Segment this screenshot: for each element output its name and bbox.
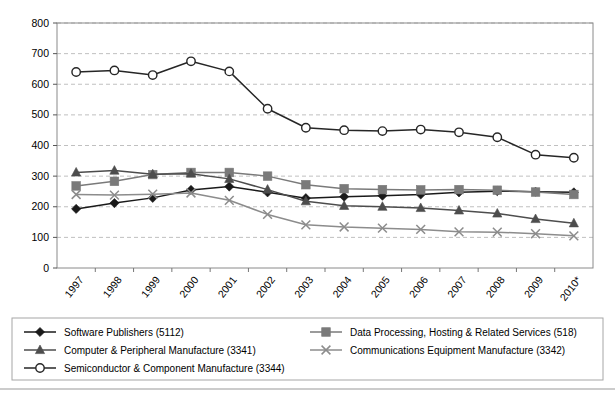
- y-tick-label-700: 700: [31, 47, 49, 59]
- marker-square: [302, 180, 311, 189]
- data-point-semiconductor-component-2008: [493, 133, 501, 141]
- y-tick-label-200: 200: [31, 200, 49, 212]
- data-point-semiconductor-component-2004: [340, 126, 348, 134]
- data-point-semiconductor-component-1998: [110, 66, 118, 74]
- marker-circle-open: [570, 154, 578, 162]
- marker-circle-open: [263, 105, 271, 113]
- marker-circle-open: [378, 127, 386, 135]
- y-tick-label-100: 100: [31, 231, 49, 243]
- marker-square: [72, 182, 81, 191]
- marker-square: [378, 185, 387, 194]
- data-point-data-processing-2003: [302, 180, 311, 189]
- marker-circle-open: [187, 57, 195, 65]
- data-point-semiconductor-component-1999: [149, 71, 157, 79]
- marker-square: [322, 328, 331, 337]
- marker-circle-open: [110, 66, 118, 74]
- legend-marker-icon: [322, 328, 331, 337]
- data-point-semiconductor-component-2010*: [570, 154, 578, 162]
- data-point-data-processing-2002: [263, 172, 272, 181]
- marker-square: [110, 177, 119, 186]
- marker-circle-open: [531, 150, 539, 158]
- marker-circle-open: [302, 124, 310, 132]
- data-point-data-processing-2009: [531, 188, 540, 197]
- data-point-data-processing-2005: [378, 185, 387, 194]
- marker-square: [493, 186, 502, 195]
- marker-circle-open: [493, 133, 501, 141]
- data-point-semiconductor-component-2003: [302, 124, 310, 132]
- data-point-semiconductor-component-2009: [531, 150, 539, 158]
- data-point-semiconductor-component-2000: [187, 57, 195, 65]
- data-point-data-processing-2010*: [570, 190, 579, 199]
- data-point-semiconductor-component-2002: [263, 105, 271, 113]
- marker-square: [455, 185, 464, 194]
- y-tick-label-600: 600: [31, 78, 49, 90]
- data-point-data-processing-2008: [493, 186, 502, 195]
- data-point-data-processing-1997: [72, 182, 81, 191]
- marker-circle-open: [340, 126, 348, 134]
- legend-item-data-processing[interactable]: Data Processing, Hosting & Related Servi…: [310, 327, 577, 338]
- chart-legend: Software Publishers (5112)Data Processin…: [0, 318, 615, 389]
- marker-circle-open: [149, 71, 157, 79]
- data-point-data-processing-2004: [340, 184, 349, 193]
- legend-label: Data Processing, Hosting & Related Servi…: [350, 327, 577, 338]
- data-point-semiconductor-component-2007: [455, 128, 463, 136]
- data-point-data-processing-1998: [110, 177, 119, 186]
- marker-square: [531, 188, 540, 197]
- y-tick-label-400: 400: [31, 139, 49, 151]
- marker-square: [263, 172, 272, 181]
- marker-square: [416, 186, 425, 195]
- marker-circle-open: [455, 128, 463, 136]
- y-tick-label-300: 300: [31, 170, 49, 182]
- legend-label: Communications Equipment Manufacture (33…: [350, 345, 565, 356]
- marker-circle-open: [72, 68, 80, 76]
- marker-circle-open: [36, 364, 44, 372]
- y-tick-label-0: 0: [43, 262, 49, 274]
- y-tick-label-800: 800: [31, 17, 49, 29]
- data-point-semiconductor-component-2006: [417, 125, 425, 133]
- marker-square: [570, 190, 579, 199]
- legend-label: Software Publishers (5112): [64, 327, 184, 338]
- marker-circle-open: [225, 67, 233, 75]
- legend-label: Semiconductor & Component Manufacture (3…: [64, 363, 285, 374]
- legend-marker-icon: [36, 364, 44, 372]
- legend-label: Computer & Peripheral Manufacture (3341): [64, 345, 256, 356]
- line-chart: 0100200300400500600700800 19971998199920…: [0, 0, 615, 393]
- data-point-semiconductor-component-1997: [72, 68, 80, 76]
- data-point-semiconductor-component-2005: [378, 127, 386, 135]
- marker-circle-open: [417, 125, 425, 133]
- data-point-semiconductor-component-2001: [225, 67, 233, 75]
- marker-square: [340, 184, 349, 193]
- legend-item-semiconductor-component[interactable]: Semiconductor & Component Manufacture (3…: [24, 363, 285, 374]
- chart-container: 0100200300400500600700800 19971998199920…: [0, 0, 615, 393]
- data-point-data-processing-2006: [416, 186, 425, 195]
- y-tick-label-500: 500: [31, 108, 49, 120]
- data-point-data-processing-2007: [455, 185, 464, 194]
